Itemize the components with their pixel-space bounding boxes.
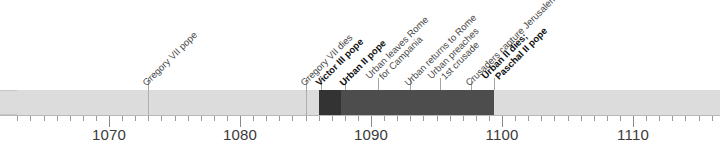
axis-tick-minor [266, 116, 267, 121]
axis-tick-minor [515, 116, 516, 121]
axis-tick-minor [685, 116, 686, 121]
axis-tick-minor [122, 116, 123, 121]
timeline-segment [341, 90, 494, 115]
event-label-line: Gregory VII pope [141, 29, 200, 88]
timeline-segment [148, 90, 305, 115]
axis-tick-label: 1070 [92, 126, 126, 143]
axis-tick-minor [489, 116, 490, 121]
timeline-axis-line [0, 115, 720, 116]
axis-tick-minor [568, 116, 569, 121]
axis-tick-minor [423, 116, 424, 121]
timeline-segment [306, 90, 319, 115]
axis-tick-minor [148, 116, 149, 121]
axis-tick-minor [57, 116, 58, 121]
axis-tick-minor [620, 116, 621, 121]
axis-tick-minor [410, 116, 411, 121]
axis-tick-minor [319, 116, 320, 121]
axis-tick-minor [607, 116, 608, 121]
axis-tick-minor [712, 116, 713, 121]
axis-tick-minor [463, 116, 464, 121]
axis-tick-minor [253, 116, 254, 121]
axis-tick-minor [17, 116, 18, 121]
axis-tick-minor [594, 116, 595, 121]
axis-tick-minor [581, 116, 582, 121]
axis-tick-minor [306, 116, 307, 121]
axis-tick-minor [292, 116, 293, 121]
axis-tick-minor [332, 116, 333, 121]
axis-tick-minor [83, 116, 84, 121]
axis-tick-minor [201, 116, 202, 121]
axis-tick-minor [476, 116, 477, 121]
axis-tick-minor [188, 116, 189, 121]
segment-divider [306, 90, 307, 115]
event-label[interactable]: Gregory VII pope [141, 30, 199, 88]
axis-tick-minor [227, 116, 228, 121]
axis-tick-minor [70, 116, 71, 121]
axis-tick-minor [699, 116, 700, 121]
timeline-segment [17, 90, 148, 115]
axis-tick-minor [672, 116, 673, 121]
axis-tick-minor [30, 116, 31, 121]
axis-tick-minor [397, 116, 398, 121]
axis-tick-minor [384, 116, 385, 121]
axis-tick-minor [96, 116, 97, 121]
axis-tick-minor [358, 116, 359, 121]
axis-tick-minor [135, 116, 136, 121]
axis-tick-minor [450, 116, 451, 121]
axis-tick-label: 1090 [354, 126, 388, 143]
axis-tick-minor [541, 116, 542, 121]
axis-tick-minor [161, 116, 162, 121]
axis-tick-minor [554, 116, 555, 121]
timeline-segment [494, 90, 720, 115]
axis-tick-label: 1110 [617, 126, 649, 143]
axis-tick-label: 1100 [485, 126, 518, 143]
papal-reign-timeline: 10701080109011001110 Gregory VII popeGre… [0, 0, 720, 166]
axis-tick-minor [437, 116, 438, 121]
axis-tick-minor [175, 116, 176, 121]
axis-tick-minor [44, 116, 45, 121]
axis-tick-minor [528, 116, 529, 121]
axis-tick-minor [345, 116, 346, 121]
axis-tick-minor [646, 116, 647, 121]
timeline-segment [319, 90, 341, 115]
axis-tick-label: 1080 [223, 126, 257, 143]
axis-tick-minor [279, 116, 280, 121]
axis-tick-minor [659, 116, 660, 121]
segment-divider [148, 90, 149, 115]
axis-tick-minor [214, 116, 215, 121]
